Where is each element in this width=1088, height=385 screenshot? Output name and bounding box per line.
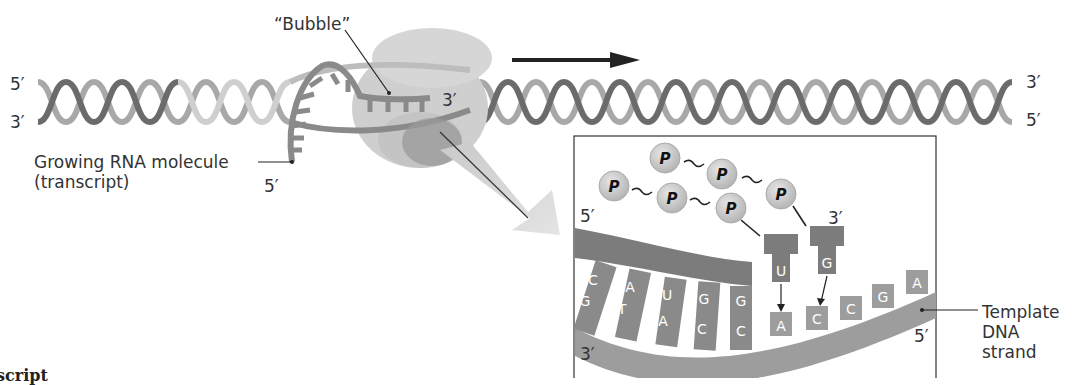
template-label-line1: Template bbox=[982, 302, 1060, 322]
inset-box: C A U G G G T A C C U G A C C G A P P P … bbox=[573, 136, 936, 378]
strand-right-5prime: 5′ bbox=[1026, 110, 1041, 130]
template-base: A bbox=[776, 318, 786, 334]
svg-text:P: P bbox=[609, 178, 620, 196]
dna-base: C bbox=[697, 321, 707, 337]
rna-base: G bbox=[699, 291, 710, 307]
rna-base: A bbox=[625, 279, 635, 295]
rna-base: C bbox=[588, 272, 598, 288]
strand-left-5prime: 5′ bbox=[10, 74, 25, 94]
growing-rna-label: Growing RNA molecule bbox=[34, 152, 229, 172]
transcript-label: (transcript) bbox=[34, 172, 129, 192]
dna-base: G bbox=[580, 293, 591, 309]
dna-helix-right bbox=[480, 82, 1012, 122]
inset-3prime-bottom: 3′ bbox=[580, 344, 595, 364]
svg-text:P: P bbox=[726, 200, 737, 218]
inset-5prime-bottom: 5′ bbox=[914, 326, 929, 346]
svg-text:P: P bbox=[717, 166, 728, 184]
rna-3prime-label: 3′ bbox=[442, 90, 457, 110]
svg-text:P: P bbox=[776, 186, 787, 204]
dna-base: T bbox=[617, 301, 627, 317]
incoming-base: G bbox=[822, 255, 833, 271]
template-base: G bbox=[878, 289, 889, 305]
template-label-line2: DNA bbox=[982, 322, 1019, 342]
strand-right-3prime: 3′ bbox=[1026, 72, 1041, 92]
direction-arrow-icon bbox=[512, 52, 640, 68]
dna-base: A bbox=[658, 313, 668, 329]
rna-5prime-label: 5′ bbox=[264, 176, 279, 196]
strand-left-3prime: 3′ bbox=[10, 112, 25, 132]
template-base: C bbox=[846, 301, 856, 317]
rna-base: U bbox=[662, 287, 672, 303]
inset-3prime-top: 3′ bbox=[828, 208, 843, 228]
template-base: C bbox=[812, 311, 822, 327]
cutoff-heading: script bbox=[0, 366, 48, 385]
svg-text:P: P bbox=[667, 190, 678, 208]
dna-base: C bbox=[736, 323, 746, 339]
incoming-base: U bbox=[776, 263, 786, 279]
bubble-label: “Bubble” bbox=[274, 14, 350, 34]
svg-text:P: P bbox=[660, 150, 671, 168]
template-base: A bbox=[912, 275, 922, 291]
rna-base: G bbox=[736, 293, 747, 309]
dna-helix-left bbox=[38, 82, 290, 122]
template-label-line3: strand bbox=[982, 342, 1037, 362]
inset-5prime-top: 5′ bbox=[580, 206, 595, 226]
zoom-arrow bbox=[440, 132, 560, 235]
